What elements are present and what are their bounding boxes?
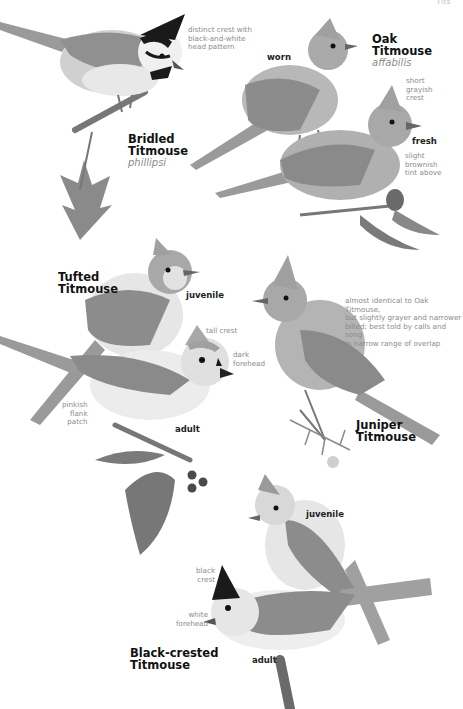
- annotation-crest-pattern: distinct crest with black-and-white head…: [188, 26, 252, 52]
- species-name-bridled-titmouse: Bridled Titmouse: [128, 133, 188, 157]
- illustrations: [0, 0, 463, 709]
- annotation-juniper-comparison: almost identical to Oak Titmouse, but sl…: [345, 297, 463, 349]
- subspecies-affabilis: affabilis: [372, 57, 411, 68]
- plumage-label-worn: worn: [267, 52, 291, 62]
- tufted-titmouse-adult-illustration: [0, 325, 234, 555]
- plumage-label-adult: adult: [175, 424, 200, 434]
- species-name-juniper-titmouse: Juniper Titmouse: [356, 419, 416, 443]
- annotation-black-crest: black crest: [196, 567, 215, 584]
- annotation-tall-crest: tall crest: [206, 327, 237, 336]
- subspecies-phillipsi: phillipsi: [128, 157, 166, 168]
- annotation-dark-forehead: dark forehead: [233, 351, 265, 368]
- species-name-black-crested-titmouse: Black-crested Titmouse: [130, 647, 218, 671]
- annotation-pinkish-flank-patch: pinkish flank patch: [62, 401, 88, 427]
- field-guide-page: Tits: [0, 0, 463, 709]
- plumage-label-fresh: fresh: [412, 136, 437, 146]
- species-name-oak-titmouse: Oak Titmouse: [372, 33, 432, 57]
- bridled-titmouse-illustration: [0, 14, 185, 240]
- plumage-label-adult-black-crested: adult: [252, 655, 277, 665]
- plumage-label-juvenile: juvenile: [186, 290, 224, 300]
- annotation-white-forehead: white forehead: [176, 611, 208, 628]
- plumage-label-juvenile-black-crested: juvenile: [306, 509, 344, 519]
- annotation-brownish-tint: slight brownish tint above: [405, 152, 442, 178]
- oak-leaf-icon: [60, 160, 112, 240]
- annotation-short-grayish-crest: short grayish crest: [406, 77, 432, 103]
- species-name-tufted-titmouse: Tufted Titmouse: [58, 271, 118, 295]
